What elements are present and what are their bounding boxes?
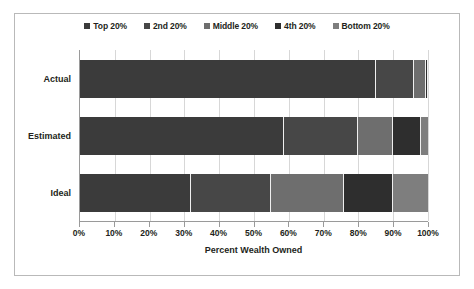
legend-item-label: Middle 20%	[213, 21, 258, 31]
legend-swatch-icon	[333, 23, 339, 29]
bar-segment[interactable]	[191, 174, 271, 212]
x-axis-tick-label: 60%	[280, 228, 297, 238]
legend-item[interactable]: 2nd 20%	[144, 21, 187, 31]
category-label: Estimated	[15, 107, 75, 164]
bar-segment[interactable]	[393, 117, 421, 155]
bar-segment[interactable]	[80, 117, 284, 155]
x-axis-tick-mark	[323, 222, 324, 227]
category-label: Ideal	[15, 165, 75, 222]
x-axis-tick-label: 100%	[417, 228, 439, 238]
x-axis-tick-label: 40%	[210, 228, 227, 238]
bar-segment[interactable]	[358, 117, 393, 155]
bar-segment[interactable]	[80, 60, 376, 98]
x-axis-tick-marks	[79, 222, 428, 227]
bar-row	[80, 50, 428, 107]
x-axis-tick-label: 30%	[175, 228, 192, 238]
legend-item-label: 2nd 20%	[153, 21, 187, 31]
x-axis-tick-mark	[393, 222, 394, 227]
chart-frame: Top 20%2nd 20%Middle 20%4th 20%Bottom 20…	[14, 13, 460, 276]
bar-segment[interactable]	[376, 60, 414, 98]
x-axis-tick-mark	[428, 222, 429, 227]
legend-swatch-icon	[84, 23, 90, 29]
x-axis-tick-label: 0%	[73, 228, 85, 238]
legend-item-label: Top 20%	[93, 21, 127, 31]
bar-row	[80, 107, 428, 164]
legend-item[interactable]: Middle 20%	[204, 21, 258, 31]
legend-item[interactable]: Bottom 20%	[333, 21, 390, 31]
stacked-bar[interactable]	[80, 117, 428, 155]
legend-item-label: 4th 20%	[284, 21, 315, 31]
x-axis-tick-mark	[79, 222, 80, 227]
chart-legend: Top 20%2nd 20%Middle 20%4th 20%Bottom 20…	[15, 21, 459, 31]
x-axis-tick-labels: 0%10%20%30%40%50%60%70%80%90%100%	[79, 228, 428, 242]
x-axis-tick-label: 10%	[105, 228, 122, 238]
stacked-bar[interactable]	[80, 174, 428, 212]
x-axis-tick-label: 90%	[385, 228, 402, 238]
x-axis-tick-mark	[358, 222, 359, 227]
bar-rows	[80, 50, 428, 221]
x-axis-tick-label: 70%	[315, 228, 332, 238]
legend-swatch-icon	[204, 23, 210, 29]
bar-segment[interactable]	[421, 117, 428, 155]
x-axis-tick-mark	[288, 222, 289, 227]
bar-segment[interactable]	[393, 174, 428, 212]
bar-segment[interactable]	[414, 60, 426, 98]
x-axis-tick-mark	[149, 222, 150, 227]
x-axis-tick-mark	[114, 222, 115, 227]
x-axis-tick-label: 20%	[140, 228, 157, 238]
legend-item-label: Bottom 20%	[342, 21, 390, 31]
x-axis-tick-mark	[254, 222, 255, 227]
x-axis-tick-mark	[219, 222, 220, 227]
x-axis-tick-label: 50%	[245, 228, 262, 238]
bar-segment[interactable]	[344, 174, 393, 212]
bar-segment[interactable]	[284, 117, 359, 155]
bar-row	[80, 164, 428, 221]
legend-swatch-icon	[275, 23, 281, 29]
bar-segment[interactable]	[80, 174, 191, 212]
plot-area	[79, 50, 428, 222]
category-axis-labels: ActualEstimatedIdeal	[15, 50, 75, 222]
x-axis-tick-mark	[184, 222, 185, 227]
legend-swatch-icon	[144, 23, 150, 29]
legend-item[interactable]: 4th 20%	[275, 21, 315, 31]
stacked-bar[interactable]	[80, 60, 428, 98]
bar-segment[interactable]	[271, 174, 344, 212]
legend-item[interactable]: Top 20%	[84, 21, 127, 31]
x-axis-title: Percent Wealth Owned	[79, 245, 428, 255]
x-axis-tick-label: 80%	[350, 228, 367, 238]
gridline	[428, 50, 429, 221]
category-label: Actual	[15, 50, 75, 107]
